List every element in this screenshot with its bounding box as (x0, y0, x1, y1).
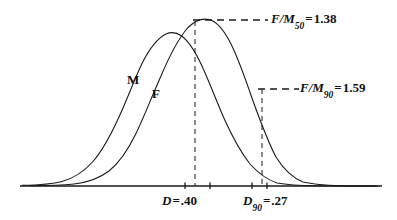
d-90-equals: = (262, 193, 271, 208)
ratio-90-subscript: 90 (324, 90, 334, 100)
ratio-50-subscript: 50 (295, 21, 305, 31)
ratio-50-value: 1.38 (314, 11, 337, 26)
annotation-d-90: D90=.27 (243, 194, 288, 211)
curve-male (22, 33, 376, 186)
annotation-ratio-90: F/M90=1.59 (300, 81, 366, 98)
ratio-50-equals: = (304, 11, 313, 26)
ratio-90-value: 1.59 (343, 80, 366, 95)
d-median-value: .40 (181, 193, 197, 208)
ratio-50-symbol: F/M (271, 11, 295, 26)
curve-female (30, 19, 378, 186)
figure-canvas (0, 0, 397, 220)
d-median-symbol: D (162, 193, 171, 208)
d-90-value: .27 (271, 193, 287, 208)
annotation-d-median: D=.40 (162, 194, 197, 207)
annotation-ratio-50: F/M50=1.38 (271, 12, 337, 29)
d-median-equals: = (171, 193, 180, 208)
ratio-90-equals: = (333, 80, 342, 95)
ratio-90-symbol: F/M (300, 80, 324, 95)
curve-label-female: F (152, 87, 160, 100)
d-90-symbol: D (243, 193, 252, 208)
curve-label-male: M (127, 73, 139, 86)
distribution-figure: F/M50=1.38 F/M90=1.59 D=.40 D90=.27 M F (0, 0, 397, 220)
d-90-subscript: 90 (252, 203, 262, 213)
